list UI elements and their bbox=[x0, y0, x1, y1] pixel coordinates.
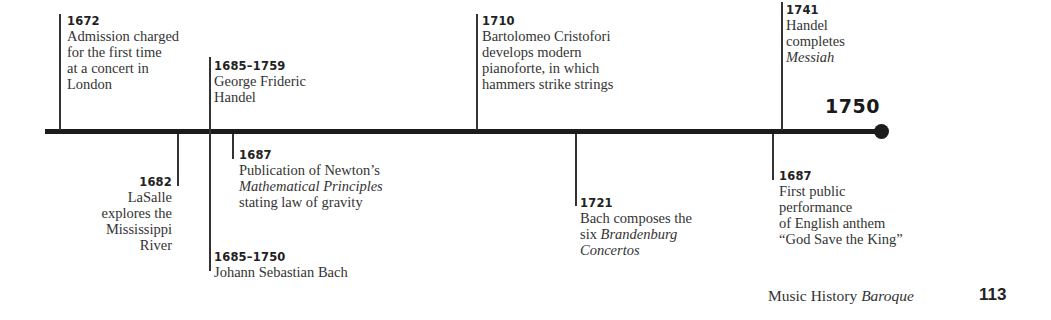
event-1687-newton: 1687 Publication of Newton’s Mathematica… bbox=[239, 148, 383, 210]
event-text-line: stating law of gravity bbox=[239, 194, 383, 210]
section-title: Baroque bbox=[861, 287, 914, 304]
tick-1710 bbox=[476, 14, 478, 130]
event-text-line: completes bbox=[786, 33, 845, 49]
tick-1687-anthem bbox=[772, 134, 774, 180]
event-year: 1685–1759 bbox=[214, 59, 306, 73]
event-1682: 1682 LaSalle explores the Mississippi Ri… bbox=[90, 175, 172, 253]
event-year: 1741 bbox=[786, 3, 845, 17]
event-year: 1721 bbox=[580, 196, 692, 210]
event-text: Bartolomeo Cristofori develops modern pi… bbox=[482, 28, 613, 92]
event-work-title: Messiah bbox=[786, 49, 845, 65]
event-1672: 1672 Admission charged for the first tim… bbox=[67, 14, 179, 92]
book-title: Music History bbox=[768, 287, 857, 304]
event-year: 1687 bbox=[779, 169, 903, 183]
event-text-line: Publication of Newton’s bbox=[239, 162, 383, 178]
event-year: 1682 bbox=[90, 175, 172, 189]
timeline-end-year: 1750 bbox=[825, 95, 880, 117]
event-work-title: Brandenburg bbox=[601, 226, 678, 242]
tick-1741 bbox=[781, 2, 783, 130]
event-1687-anthem: 1687 First public performance of English… bbox=[779, 169, 903, 247]
tick-1721 bbox=[575, 134, 577, 206]
tick-1685-handel-bach bbox=[209, 57, 211, 271]
event-text: George Frideric Handel bbox=[214, 73, 306, 105]
timeline-end-dot bbox=[874, 124, 889, 139]
event-work-title-cont: Concertos bbox=[580, 242, 692, 258]
event-text-line: Handel bbox=[786, 17, 845, 33]
page-footer: Music HistoryBaroque 113 bbox=[768, 287, 914, 305]
event-1685-bach: 1685–1750 Johann Sebastian Bach bbox=[214, 250, 348, 280]
event-1721: 1721 Bach composes the six Brandenburg C… bbox=[580, 196, 692, 258]
event-work-title: Mathematical Principles bbox=[239, 178, 383, 194]
tick-1682 bbox=[177, 134, 179, 186]
page-number: 113 bbox=[979, 285, 1006, 305]
event-text: Admission charged for the first time at … bbox=[67, 28, 179, 92]
event-text: LaSalle explores the Mississippi River bbox=[90, 189, 172, 253]
tick-1687-newton bbox=[232, 134, 234, 159]
event-text-line: six Brandenburg bbox=[580, 226, 692, 242]
event-year: 1685–1750 bbox=[214, 250, 348, 264]
event-year: 1672 bbox=[67, 14, 179, 28]
event-text-line: Bach composes the bbox=[580, 210, 692, 226]
event-year: 1710 bbox=[482, 14, 613, 28]
event-1741: 1741 Handel completes Messiah bbox=[786, 3, 845, 65]
timeline-axis bbox=[45, 129, 881, 134]
event-text: First public performance of English anth… bbox=[779, 183, 903, 247]
tick-1672 bbox=[59, 14, 61, 130]
event-text-prefix: six bbox=[580, 226, 601, 242]
event-1685-handel: 1685–1759 George Frideric Handel bbox=[214, 59, 306, 105]
event-1710: 1710 Bartolomeo Cristofori develops mode… bbox=[482, 14, 613, 92]
event-text: Johann Sebastian Bach bbox=[214, 264, 348, 280]
event-year: 1687 bbox=[239, 148, 383, 162]
